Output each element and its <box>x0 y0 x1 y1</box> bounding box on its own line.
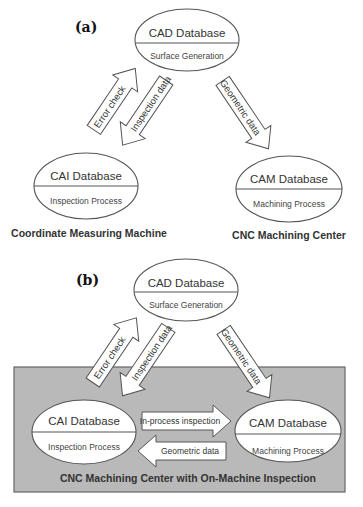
cad-title: CAD Database <box>149 27 226 39</box>
panel-a: (a) CAD Database Surface Generation Erro… <box>11 9 346 241</box>
cnc-label: CNC Machining Center <box>232 229 346 241</box>
panel-b: (b) CAD Database Surface Generation Erro… <box>14 259 345 492</box>
cam-database-node-b: CAM Database Machining Process <box>235 400 341 462</box>
cai-title: CAI Database <box>50 170 122 182</box>
cad-database-node-b: CAD Database Surface Generation <box>134 259 238 321</box>
panel-b-label: (b) <box>76 272 99 288</box>
cam-subtitle-b: Machining Process <box>252 446 324 456</box>
on-machine-inspection-label: CNC Machining Center with On-Machine Ins… <box>60 472 316 484</box>
geometric-data-label: Geometric data <box>218 77 264 138</box>
cmm-label: Coordinate Measuring Machine <box>11 227 167 239</box>
cai-database-node-b: CAI Database Inspection Process <box>32 400 136 464</box>
in-process-inspection-label: In-process inspection <box>140 416 221 426</box>
cam-database-node: CAM Database Machining Process <box>236 156 342 222</box>
cai-subtitle: Inspection Process <box>50 196 122 206</box>
cad-subtitle: Surface Generation <box>150 51 224 61</box>
geometric-data-arrow: Geometric data <box>210 72 281 157</box>
cam-title-b: CAM Database <box>249 417 327 429</box>
cai-subtitle-b: Inspection Process <box>48 442 120 452</box>
cai-database-node: CAI Database Inspection Process <box>34 153 138 219</box>
cad-database-node: CAD Database Surface Generation <box>135 9 239 71</box>
cam-subtitle: Machining Process <box>253 199 325 209</box>
cad-subtitle-b: Surface Generation <box>149 300 223 310</box>
cad-title-b: CAD Database <box>148 277 225 289</box>
geometric-data-back-label: Geometric data <box>161 446 219 456</box>
cam-title: CAM Database <box>250 173 328 185</box>
diagram-canvas: (a) CAD Database Surface Generation Erro… <box>0 0 363 507</box>
panel-a-label: (a) <box>75 19 97 35</box>
cai-title-b: CAI Database <box>48 415 120 427</box>
